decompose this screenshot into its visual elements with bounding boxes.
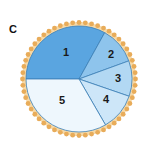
membrane-dot-icon — [95, 23, 100, 28]
membrane-dot-icon — [124, 107, 129, 112]
membrane-dot-icon — [26, 52, 31, 57]
membrane-dot-icon — [133, 77, 138, 82]
membrane-dot-icon — [128, 101, 133, 106]
membrane-dot-icon — [117, 117, 122, 122]
membrane-dot-icon — [133, 83, 138, 88]
membrane-dot-icon — [124, 47, 129, 52]
membrane-dot-icon — [121, 41, 126, 46]
membrane-dot-icon — [32, 112, 37, 117]
sector-label-1: 1 — [63, 46, 69, 58]
membrane-dot-icon — [83, 133, 88, 138]
membrane-dot-icon — [58, 23, 63, 28]
membrane-dot-icon — [32, 41, 37, 46]
membrane-dot-icon — [20, 70, 25, 75]
membrane-dot-icon — [133, 70, 138, 75]
membrane-dot-icon — [101, 128, 106, 133]
sector-label-4: 4 — [103, 93, 110, 105]
membrane-dot-icon — [26, 101, 31, 106]
membrane-dot-icon — [112, 32, 117, 37]
membrane-dot-icon — [41, 32, 46, 37]
membrane-dot-icon — [132, 64, 137, 69]
membrane-dot-icon — [64, 132, 69, 137]
membrane-dot-icon — [70, 20, 75, 25]
membrane-dot-icon — [29, 107, 34, 112]
membrane-dot-icon — [22, 64, 27, 69]
membrane-dot-icon — [23, 95, 28, 100]
membrane-dot-icon — [112, 121, 117, 126]
membrane-dot-icon — [41, 121, 46, 126]
cell-diagram: 12345 — [0, 0, 151, 143]
membrane-dot-icon — [29, 47, 34, 52]
membrane-dot-icon — [130, 95, 135, 100]
membrane-dot-icon — [95, 130, 100, 135]
membrane-dot-icon — [47, 29, 52, 34]
membrane-dot-icon — [89, 132, 94, 137]
membrane-dot-icon — [77, 133, 82, 138]
membrane-dot-icon — [58, 130, 63, 135]
membrane-dot-icon — [20, 83, 25, 88]
membrane-dot-icon — [107, 29, 112, 34]
membrane-dot-icon — [37, 37, 42, 42]
membrane-dot-icon — [121, 112, 126, 117]
membrane-dot-icon — [70, 133, 75, 138]
membrane-dot-icon — [132, 89, 137, 94]
membrane-dot-icon — [130, 58, 135, 63]
membrane-dot-icon — [107, 124, 112, 129]
membrane-dot-icon — [64, 22, 69, 27]
membrane-dot-icon — [37, 117, 42, 122]
membrane-dot-icon — [83, 20, 88, 25]
membrane-dot-icon — [101, 26, 106, 31]
membrane-dot-icon — [77, 20, 82, 25]
sector-label-2: 2 — [108, 48, 114, 60]
membrane-dot-icon — [117, 37, 122, 42]
membrane-dot-icon — [47, 124, 52, 129]
membrane-dot-icon — [22, 89, 27, 94]
membrane-dot-icon — [128, 52, 133, 57]
membrane-dot-icon — [52, 128, 57, 133]
membrane-dot-icon — [52, 26, 57, 31]
membrane-dot-icon — [89, 22, 94, 27]
membrane-dot-icon — [23, 58, 28, 63]
sector-label-5: 5 — [59, 94, 65, 106]
membrane-dot-icon — [20, 77, 25, 82]
sector-label-3: 3 — [115, 72, 121, 84]
